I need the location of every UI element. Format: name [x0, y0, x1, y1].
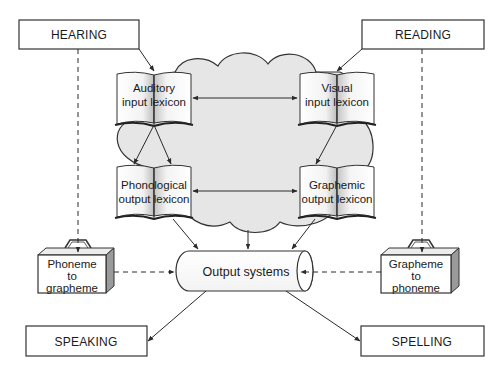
output-systems-label: Output systems	[203, 265, 290, 279]
graphemic-output-lexicon-book: Graphemic output lexicon	[298, 165, 376, 219]
visual-line1: Visual	[321, 82, 352, 94]
speaking-label: SPEAKING	[55, 335, 118, 349]
phonological-output-lexicon-book: Phonological output lexicon	[115, 165, 193, 219]
visual-input-lexicon-book: Visual input lexicon	[298, 72, 376, 126]
arrow-reading-to-visual	[337, 49, 362, 71]
reading-box: READING	[362, 20, 484, 49]
spelling-label: SPELLING	[392, 335, 452, 349]
auditory-line2: input lexicon	[122, 96, 186, 108]
grapheme-to-phoneme-case: Grapheme to phoneme	[381, 240, 459, 294]
lexical-processing-diagram: HEARING READING SPEAKING SPELLING Audito…	[0, 0, 504, 376]
auditory-input-lexicon-book: Auditory input lexicon	[115, 72, 193, 126]
phoneme-to-grapheme-case: Phoneme to grapheme	[38, 240, 114, 294]
p2g-line2: to	[67, 270, 77, 282]
arrow-output-to-spelling	[286, 291, 360, 341]
phonological-line2: output lexicon	[119, 193, 190, 205]
auditory-line1: Auditory	[133, 82, 175, 94]
p2g-line3: grapheme	[46, 282, 98, 294]
g2p-line2: to	[411, 270, 421, 282]
graphemic-line1: Graphemic	[309, 179, 365, 191]
g2p-line3: phoneme	[392, 282, 440, 294]
arrow-hearing-to-auditory	[139, 49, 154, 71]
output-systems-cylinder: Output systems	[176, 251, 313, 291]
speaking-box: SPEAKING	[26, 326, 147, 356]
phonological-line1: Phonological	[121, 179, 187, 191]
visual-line2: input lexicon	[305, 96, 369, 108]
hearing-label: HEARING	[51, 28, 107, 42]
graphemic-line2: output lexicon	[302, 193, 373, 205]
g2p-line1: Grapheme	[389, 258, 443, 270]
hearing-box: HEARING	[19, 20, 139, 49]
arrow-phonological-to-output	[173, 219, 198, 249]
p2g-line1: Phoneme	[47, 258, 96, 270]
spelling-box: SPELLING	[361, 326, 484, 356]
arrow-output-to-speaking	[148, 291, 206, 341]
reading-label: READING	[395, 28, 451, 42]
